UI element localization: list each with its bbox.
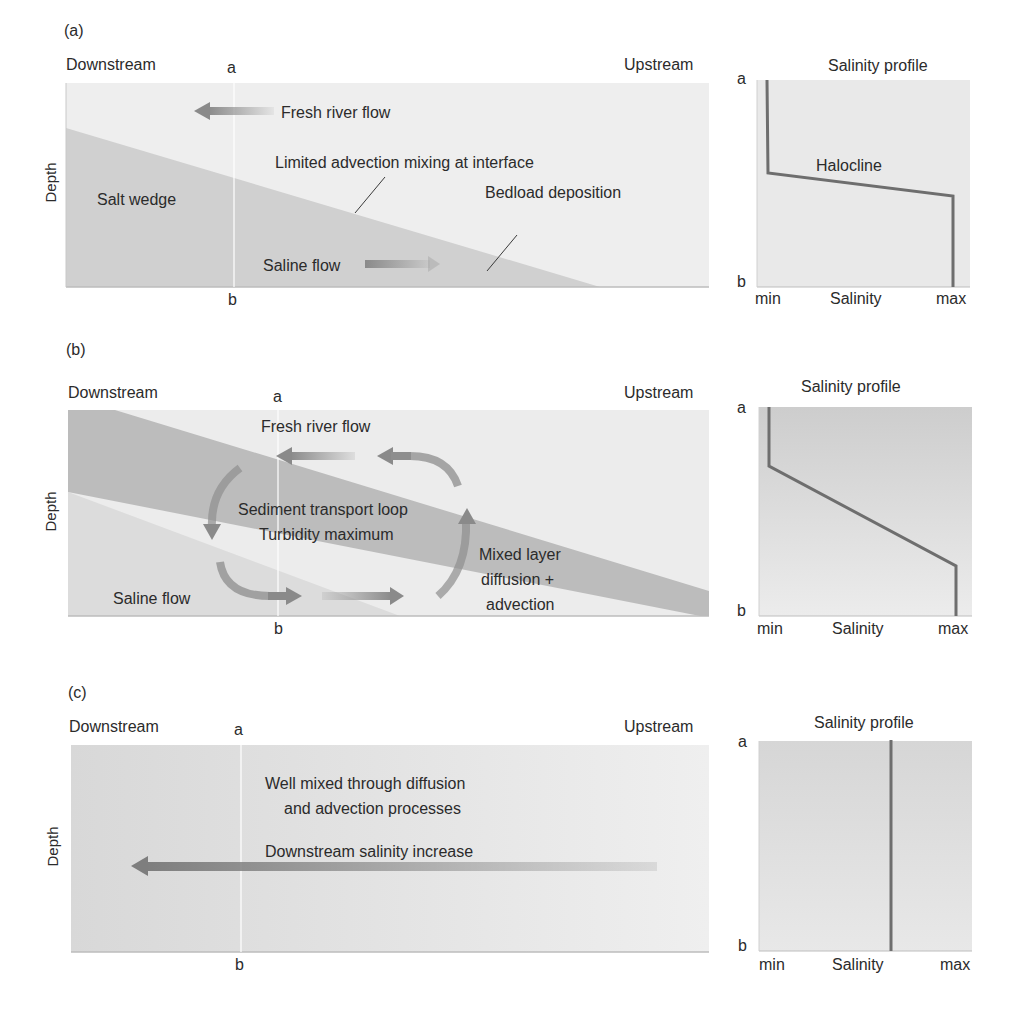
gradient-label: Downstream salinity increase [265, 843, 473, 860]
x-min-label: min [759, 956, 785, 974]
profile-title: Salinity profile [814, 714, 914, 732]
salinity-profile-c [759, 741, 972, 951]
profile-top-label: a [738, 733, 747, 751]
well-mixed-line1: Well mixed through diffusion [265, 775, 465, 792]
well-mixed-line2: and advection processes [284, 800, 461, 817]
estuary-cross-section-c: Well mixed through diffusion and advecti… [0, 0, 1010, 1011]
x-max-label: max [940, 956, 970, 974]
x-axis-label: Salinity [832, 956, 884, 974]
profile-bottom-label: b [738, 937, 747, 955]
